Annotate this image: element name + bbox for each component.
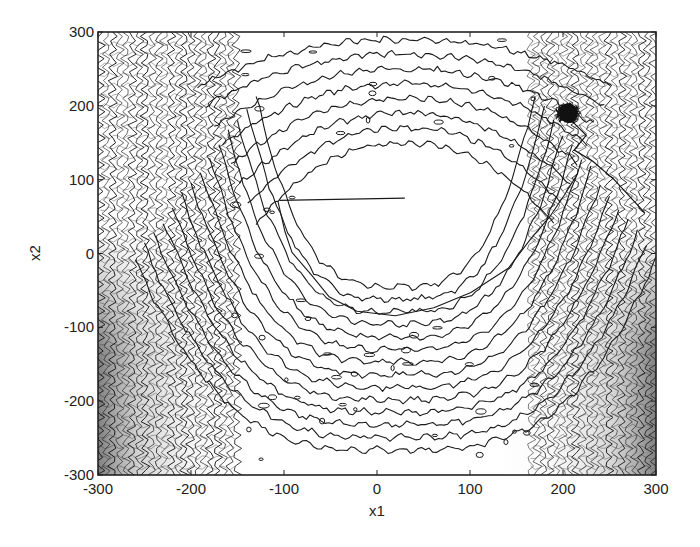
y-tick-label: -100 (64, 318, 94, 335)
x-tick-label: -200 (176, 480, 206, 497)
plot-area (96, 32, 659, 475)
y-tick-label: 100 (69, 171, 94, 188)
contour-figure: -300-200-1000100200300 -300-200-10001002… (0, 0, 700, 547)
y-tick-label: 300 (69, 23, 94, 40)
x-axis-label: x1 (369, 502, 385, 519)
y-axis-label: x2 (26, 245, 43, 261)
x-tick-label: -100 (269, 480, 299, 497)
y-tick-label: -200 (64, 392, 94, 409)
x-tick-label: 0 (373, 480, 381, 497)
x-tick-label: 300 (643, 480, 668, 497)
x-tick-label: 200 (550, 480, 575, 497)
x-tick-label: 100 (457, 480, 482, 497)
y-tick-label: 0 (86, 245, 94, 262)
y-tick-label: 200 (69, 97, 94, 114)
y-tick-label: -300 (64, 466, 94, 483)
